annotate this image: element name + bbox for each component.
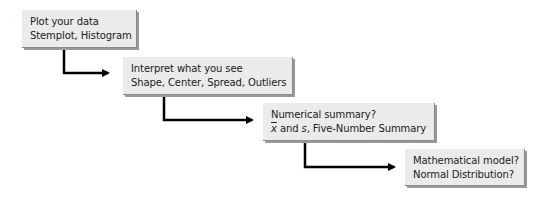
arrow-step2-to-step3 bbox=[164, 95, 252, 120]
step-detail: x and s, Five-Number Summary bbox=[271, 122, 434, 136]
step-box-numerical-summary: Numerical summary? x and s, Five-Number … bbox=[263, 103, 435, 141]
arrow-step3-to-step4 bbox=[305, 141, 394, 167]
step-box-mathematical-model: Mathematical model? Normal Distribution? bbox=[405, 149, 525, 186]
step-detail: Stemplot, Histogram bbox=[30, 29, 136, 43]
step-title: Plot your data bbox=[30, 15, 136, 29]
step-detail: Shape, Center, Spread, Outliers bbox=[131, 76, 292, 90]
arrow-step1-to-step2 bbox=[64, 48, 108, 73]
step-title: Mathematical model? bbox=[413, 154, 524, 168]
step-detail: Normal Distribution? bbox=[413, 168, 524, 182]
step-title: Numerical summary? bbox=[271, 108, 434, 122]
step-title: Interpret what you see bbox=[131, 62, 292, 76]
step-box-interpret: Interpret what you see Shape, Center, Sp… bbox=[123, 57, 293, 95]
step-box-plot-data: Plot your data Stemplot, Histogram bbox=[22, 10, 137, 48]
